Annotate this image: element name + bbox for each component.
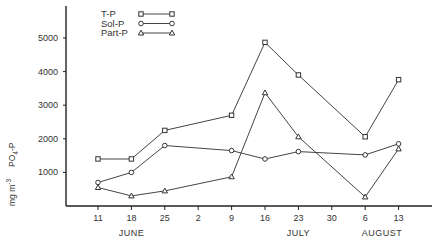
y-tick-label: 1000 <box>38 167 58 177</box>
series-line <box>98 42 399 159</box>
circle-marker-icon <box>296 149 301 154</box>
triangle-marker-icon <box>169 30 174 35</box>
month-label: JULY <box>287 228 310 238</box>
square-marker-icon <box>229 113 233 117</box>
phosphorus-line-chart: mg m-3PO4-P 10002000300040005000 1118252… <box>0 0 438 242</box>
square-marker-icon <box>170 12 174 16</box>
series-part-p <box>95 90 401 199</box>
circle-marker-icon <box>129 170 134 175</box>
circle-marker-icon <box>263 157 268 162</box>
x-tick-label: 25 <box>160 213 170 223</box>
legend: T-PSol-PPart-P <box>101 8 175 38</box>
circle-marker-icon <box>163 143 168 148</box>
square-marker-icon <box>96 157 100 161</box>
triangle-marker-icon <box>129 193 134 198</box>
series-t-p <box>96 40 401 161</box>
circle-marker-icon <box>363 153 368 158</box>
series-line <box>98 93 399 197</box>
x-tick-label: 2 <box>196 213 201 223</box>
circle-marker-icon <box>229 148 234 153</box>
month-label: AUGUST <box>362 228 403 238</box>
square-marker-icon <box>163 128 167 132</box>
triangle-marker-icon <box>396 146 401 151</box>
y-tick-label: 5000 <box>38 33 58 43</box>
x-tick-label: 9 <box>229 213 234 223</box>
series-sol-p <box>96 142 401 185</box>
triangle-marker-icon <box>138 30 143 35</box>
x-tick-label: 6 <box>363 213 368 223</box>
y-tick-label: 2000 <box>38 134 58 144</box>
y-axis-label: mg m-3PO4-P <box>5 142 19 206</box>
x-tick-label: 13 <box>394 213 404 223</box>
x-tick-label: 16 <box>260 213 270 223</box>
square-marker-icon <box>263 40 267 44</box>
x-axis-ticks: 11182529162330613 <box>93 206 403 223</box>
y-tick-label: 4000 <box>38 67 58 77</box>
legend-label: Part-P <box>101 27 128 38</box>
circle-marker-icon <box>139 21 144 26</box>
square-marker-icon <box>363 135 367 139</box>
square-marker-icon <box>139 12 143 16</box>
triangle-marker-icon <box>95 185 100 190</box>
y-axis-title: mg m-3PO4-P <box>5 142 19 206</box>
triangle-marker-icon <box>262 90 267 95</box>
triangle-marker-icon <box>162 188 167 193</box>
y-tick-label: 3000 <box>38 100 58 110</box>
x-tick-label: 18 <box>126 213 136 223</box>
y-axis-ticks: 10002000300040005000 <box>38 33 66 177</box>
circle-marker-icon <box>170 21 175 26</box>
square-marker-icon <box>396 77 400 81</box>
data-series <box>95 40 401 199</box>
square-marker-icon <box>296 73 300 77</box>
month-labels: JUNEJULYAUGUST <box>119 228 403 238</box>
month-label: JUNE <box>119 228 145 238</box>
x-tick-label: 11 <box>93 213 102 223</box>
square-marker-icon <box>129 157 133 161</box>
legend-item-part-p: Part-P <box>101 27 175 38</box>
x-tick-label: 30 <box>327 213 337 223</box>
x-tick-label: 23 <box>293 213 303 223</box>
triangle-marker-icon <box>229 174 234 179</box>
